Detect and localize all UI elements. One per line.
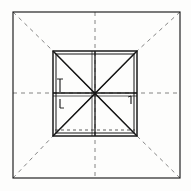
centre-point-marker	[94, 92, 97, 95]
technical-line-drawing	[0, 0, 191, 191]
figure-container: Perspective construction of a square fra…	[0, 0, 191, 191]
